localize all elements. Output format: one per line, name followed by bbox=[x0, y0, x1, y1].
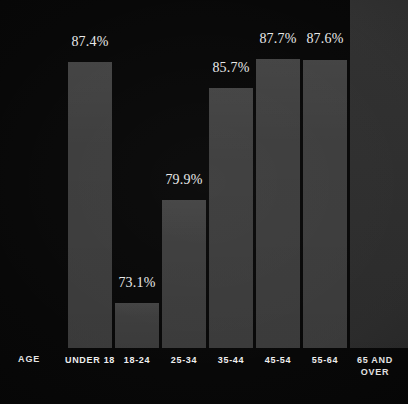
tick-label-65-and-over: 65 AND OVER bbox=[344, 354, 406, 378]
bar-chart: 87.4% 73.1% 79.9% 85.7% 87.7% 87.6% AGE … bbox=[0, 0, 408, 404]
bar-18-24[interactable] bbox=[115, 303, 159, 348]
bar-under-18[interactable] bbox=[68, 62, 112, 348]
bar-value-under-18: 87.4% bbox=[60, 34, 120, 50]
bar-value-25-34: 79.9% bbox=[154, 172, 214, 188]
bar-45-54[interactable] bbox=[256, 59, 300, 348]
bar-value-35-44: 85.7% bbox=[201, 60, 261, 76]
bar-65-and-over[interactable] bbox=[350, 0, 408, 348]
bar-25-34[interactable] bbox=[162, 200, 206, 348]
bar-55-64[interactable] bbox=[303, 60, 347, 348]
plot-area: 87.4% 73.1% 79.9% 85.7% 87.7% 87.6% bbox=[0, 0, 408, 348]
bar-35-44[interactable] bbox=[209, 88, 253, 348]
bar-value-18-24: 73.1% bbox=[107, 275, 167, 291]
bar-value-55-64: 87.6% bbox=[295, 31, 355, 47]
category-axis-labels: UNDER 18 18-24 25-34 35-44 45-54 55-64 6… bbox=[0, 348, 408, 404]
